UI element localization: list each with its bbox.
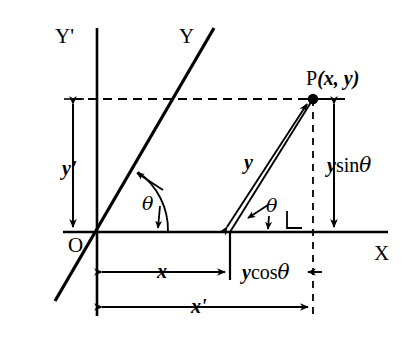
point-p-name: P (306, 67, 317, 89)
oblique-segment-foot-to-p (230, 99, 313, 280)
y-cos-theta-label: ycosθ (242, 262, 290, 282)
y-sin-theta-theta: θ (359, 153, 371, 177)
right-angle-mark (287, 211, 302, 228)
y-sin-theta-sin: sin (336, 154, 359, 176)
y-cos-theta-theta: θ (278, 260, 290, 284)
y-prime-axis-label: Y' (55, 26, 74, 47)
x-prime-measure-label: x' (191, 296, 207, 316)
point-p-coordinates: (x, y) (317, 67, 359, 89)
theta-origin-label: θ (142, 194, 153, 213)
y-sin-theta-label: ysinθ (327, 155, 371, 175)
y-sin-theta-y: y (327, 154, 336, 176)
geometry-diagram: Y' Y X O P(x, y) y' y ysinθ ycosθ x x' θ… (0, 0, 415, 346)
y-cos-theta-cos: cos (251, 261, 278, 283)
x-axis-label: X (374, 243, 389, 264)
x-measure-label: x (157, 261, 167, 281)
oblique-y-axis-line (55, 28, 214, 301)
y-prime-measure-label: y' (62, 158, 76, 178)
theta-foot-label: θ (266, 196, 277, 215)
y-measure-label: y (244, 152, 253, 172)
y-axis-label: Y (179, 26, 194, 47)
y-cos-theta-y: y (242, 261, 251, 283)
origin-label: O (68, 235, 83, 256)
point-p-label: P(x, y) (306, 68, 359, 88)
